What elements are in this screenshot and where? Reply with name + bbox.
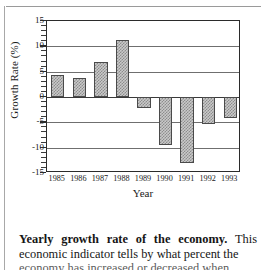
bar-1987 [94, 62, 107, 97]
page-top-rule [6, 6, 261, 7]
bar-chart-figure: Growth Rate (%) 151050-5-10-15 198519861… [0, 14, 261, 200]
bar-1988 [116, 40, 129, 97]
bar-1991 [180, 97, 193, 163]
x-tick-label-1989: 1989 [135, 174, 151, 184]
bar-1989 [137, 97, 150, 108]
bar-1986 [73, 78, 86, 97]
x-tick-label-1985: 1985 [49, 174, 65, 184]
x-tick-label-1991: 1991 [178, 174, 194, 184]
bar-series [47, 21, 239, 171]
figure-caption: Yearly growth rate of the economy. This … [19, 232, 257, 270]
x-tick-label-1990: 1990 [156, 174, 172, 184]
x-tick-label-1986: 1986 [70, 174, 86, 184]
bar-1990 [159, 97, 172, 145]
x-tick-label-1992: 1992 [199, 174, 215, 184]
caption-lead: Yearly growth rate of the economy. [19, 232, 227, 246]
caption-line3-clipped: economy has increased or decreased when [19, 261, 257, 270]
bar-1993 [224, 97, 237, 118]
x-axis-label: Year [46, 187, 240, 199]
plot-area [46, 20, 240, 172]
x-axis-tick-labels: 198519861987198819891990199119921993 [46, 174, 240, 186]
x-tick-label-1993: 1993 [221, 174, 237, 184]
caption-line1-tail: This [227, 232, 257, 246]
bar-1985 [51, 75, 64, 97]
x-tick-label-1987: 1987 [92, 174, 108, 184]
x-tick-label-1988: 1988 [113, 174, 129, 184]
caption-line2: economic indicator tells by what percent… [19, 247, 239, 261]
bar-1992 [202, 97, 215, 124]
